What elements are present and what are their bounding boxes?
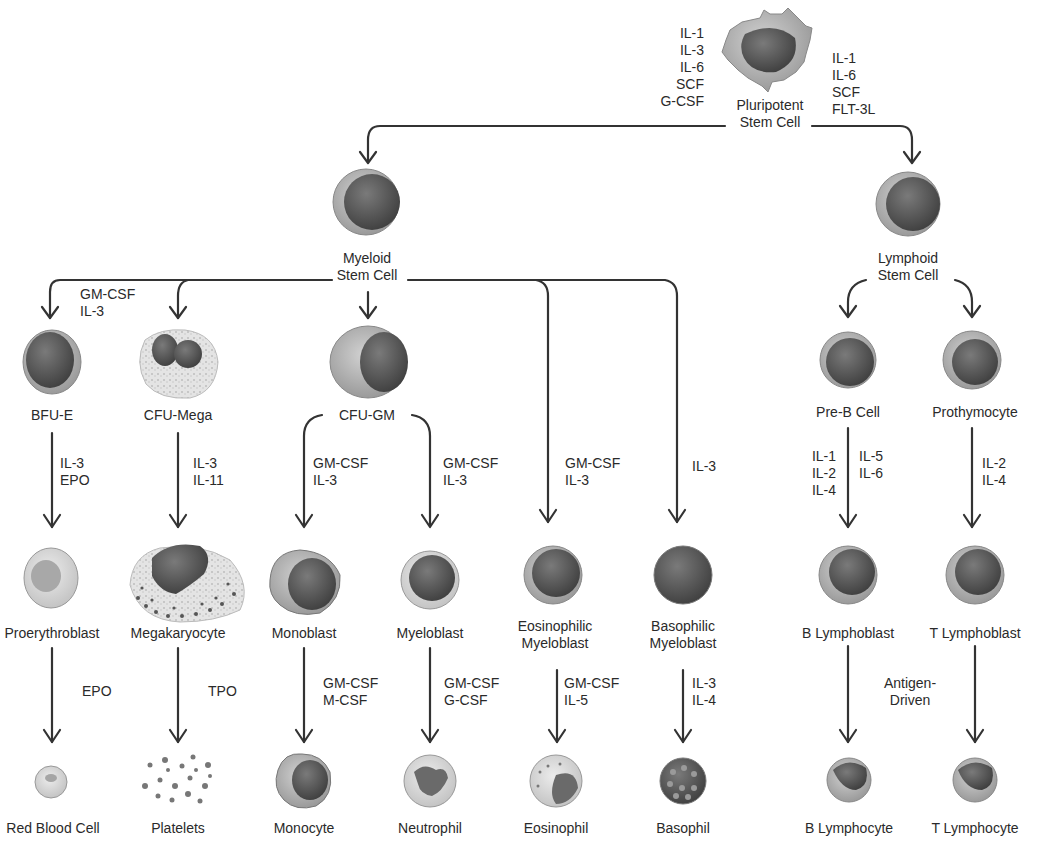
myeloblast-cell-icon — [401, 551, 459, 609]
megakaryocyte-cell-icon — [130, 545, 244, 623]
lymphoid-stem-cell-icon — [876, 172, 940, 236]
label-pluripotent-stem-cell: Pluripotent Stem Cell — [727, 97, 813, 131]
factors-to-myeloblast: GM-CSF IL-3 — [443, 455, 498, 489]
factor: SCF — [650, 76, 704, 93]
factors-to-basophil: IL-3 IL-4 — [692, 675, 716, 709]
label-cfu-mega: CFU-Mega — [128, 407, 228, 424]
factors-to-lymphoid: IL-1 IL-6 SCF FLT-3L — [832, 50, 875, 118]
factor: IL-3 — [193, 455, 224, 472]
cfu-mega-cell-icon — [140, 330, 218, 399]
basophilic-myeloblast-cell-icon — [654, 546, 712, 604]
factor: GM-CSF — [323, 675, 378, 692]
factor: IL-3 — [80, 303, 135, 320]
factor: Driven — [875, 692, 945, 709]
factors-to-proerythroblast: IL-3 EPO — [60, 455, 90, 489]
factors-to-platelets: TPO — [208, 683, 237, 700]
factor: IL-2 — [800, 465, 836, 482]
factors-to-eosinophilic-myeloblast: GM-CSF IL-3 — [565, 455, 620, 489]
label-neutrophil: Neutrophil — [380, 820, 480, 837]
factor: IL-2 — [982, 455, 1006, 472]
label-monocyte: Monocyte — [254, 820, 354, 837]
factor: G-CSF — [650, 93, 704, 110]
factor: G-CSF — [444, 692, 499, 709]
factor: IL-4 — [982, 472, 1006, 489]
label-line: Pluripotent — [727, 97, 813, 114]
factors-to-t-lymphoblast: IL-2 IL-4 — [982, 455, 1006, 489]
factor: IL-1 — [800, 448, 836, 465]
factor: GM-CSF — [313, 455, 368, 472]
factors-to-b-lymphoblast-left: IL-1 IL-2 IL-4 — [800, 448, 836, 499]
label-b-lymphocyte: B Lymphocyte — [789, 820, 909, 837]
bfu-e-cell-icon — [23, 330, 81, 394]
neutrophil-cell-icon — [404, 755, 456, 807]
label-line: Stem Cell — [727, 114, 813, 131]
pluripotent-stem-cell-icon — [722, 8, 812, 92]
label-line: Myeloblast — [633, 635, 733, 652]
factor: TPO — [208, 683, 237, 700]
factor: IL-1 — [650, 25, 704, 42]
label-lymphoid-stem-cell: Lymphoid Stem Cell — [868, 250, 948, 284]
factors-to-basophilic-myeloblast: IL-3 — [692, 458, 716, 475]
factor: IL-3 — [692, 675, 716, 692]
factor: IL-3 — [565, 472, 620, 489]
factors-to-rbc: EPO — [82, 683, 112, 700]
b-lymphoblast-cell-icon — [819, 546, 877, 604]
label-red-blood-cell: Red Blood Cell — [0, 820, 112, 837]
label-megakaryocyte: Megakaryocyte — [122, 625, 234, 642]
factor: IL-3 — [692, 458, 716, 475]
factors-to-eosinophil: GM-CSF IL-5 — [564, 675, 619, 709]
label-myeloblast: Myeloblast — [380, 625, 480, 642]
factors-to-bfue-cfumega: GM-CSF IL-3 — [80, 286, 135, 320]
label-t-lymphocyte: T Lymphocyte — [915, 820, 1035, 837]
factor: M-CSF — [323, 692, 378, 709]
factors-to-monocyte: GM-CSF M-CSF — [323, 675, 378, 709]
factor: GM-CSF — [564, 675, 619, 692]
factor: IL-3 — [313, 472, 368, 489]
label-line: Lymphoid — [868, 250, 948, 267]
monocyte-cell-icon — [276, 754, 331, 808]
red-blood-cell-icon — [35, 766, 67, 798]
b-lymphocyte-cell-icon — [827, 758, 871, 802]
t-lymphoblast-cell-icon — [946, 546, 1004, 604]
factor: GM-CSF — [80, 286, 135, 303]
label-proerythroblast: Proerythroblast — [0, 625, 108, 642]
factor: FLT-3L — [832, 101, 875, 118]
factor: EPO — [60, 472, 90, 489]
factors-to-megakaryocyte: IL-3 IL-11 — [193, 455, 224, 489]
eosinophilic-myeloblast-cell-icon — [524, 546, 582, 604]
label-t-lymphoblast: T Lymphoblast — [915, 625, 1035, 642]
factor: GM-CSF — [443, 455, 498, 472]
factor: GM-CSF — [565, 455, 620, 472]
factor: Antigen- — [875, 675, 945, 692]
basophil-cell-icon — [660, 758, 706, 804]
label-bfu-e: BFU-E — [12, 407, 92, 424]
cfu-gm-cell-icon — [330, 326, 408, 398]
monoblast-cell-icon — [270, 550, 340, 614]
label-eosinophil: Eosinophil — [506, 820, 606, 837]
factor: SCF — [832, 84, 875, 101]
factors-to-myeloid: IL-1 IL-3 IL-6 SCF G-CSF — [650, 25, 704, 110]
prothymocyte-cell-icon — [943, 331, 1001, 389]
platelets-icon — [142, 755, 212, 804]
label-pre-b-cell: Pre-B Cell — [798, 404, 898, 421]
hematopoiesis-diagram: Pluripotent Stem Cell Myeloid Stem Cell … — [0, 0, 1041, 858]
eosinophil-cell-icon — [530, 755, 582, 807]
factor: IL-4 — [692, 692, 716, 709]
label-platelets: Platelets — [130, 820, 226, 837]
label-myeloid-stem-cell: Myeloid Stem Cell — [327, 250, 407, 284]
label-b-lymphoblast: B Lymphoblast — [788, 625, 908, 642]
label-prothymocyte: Prothymocyte — [920, 404, 1030, 421]
t-lymphocyte-cell-icon — [953, 758, 997, 802]
label-line: Stem Cell — [327, 267, 407, 284]
factor: IL-3 — [650, 42, 704, 59]
proerythroblast-cell-icon — [24, 548, 78, 608]
label-line: Eosinophilic — [505, 618, 605, 635]
factor: IL-5 — [564, 692, 619, 709]
factor: IL-3 — [443, 472, 498, 489]
label-line: Myeloid — [327, 250, 407, 267]
factor: IL-6 — [832, 67, 875, 84]
factor: IL-6 — [859, 465, 883, 482]
factor: IL-5 — [859, 448, 883, 465]
factor: IL-11 — [193, 472, 224, 489]
factors-to-monoblast: GM-CSF IL-3 — [313, 455, 368, 489]
